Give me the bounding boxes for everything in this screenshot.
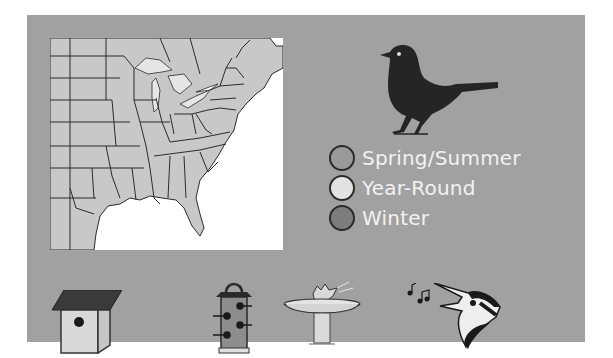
legend-item-spring-summer: Spring/Summer: [329, 143, 521, 173]
legend-item-winter: Winter: [329, 203, 521, 233]
legend-item-year-round: Year-Round: [329, 173, 521, 203]
legend-label: Year-Round: [362, 176, 476, 200]
birdhouse-icon: [50, 290, 122, 358]
legend-label: Spring/Summer: [362, 146, 521, 170]
info-panel: Spring/Summer Year-Round Winter: [27, 15, 585, 342]
birdbath-icon: [281, 280, 363, 352]
winter-swatch: [329, 205, 355, 231]
songbird-silhouette-icon: [372, 42, 502, 144]
eastern-us-map-icon: [50, 38, 283, 250]
spring-summer-swatch: [329, 145, 355, 171]
legend-label: Winter: [362, 206, 429, 230]
singing-bird-icon: [406, 283, 516, 357]
range-map: [50, 38, 283, 250]
year-round-swatch: [329, 175, 355, 201]
season-legend: Spring/Summer Year-Round Winter: [329, 143, 521, 233]
tube-feeder-icon: [211, 277, 256, 358]
music-notes-icon: [408, 283, 430, 304]
